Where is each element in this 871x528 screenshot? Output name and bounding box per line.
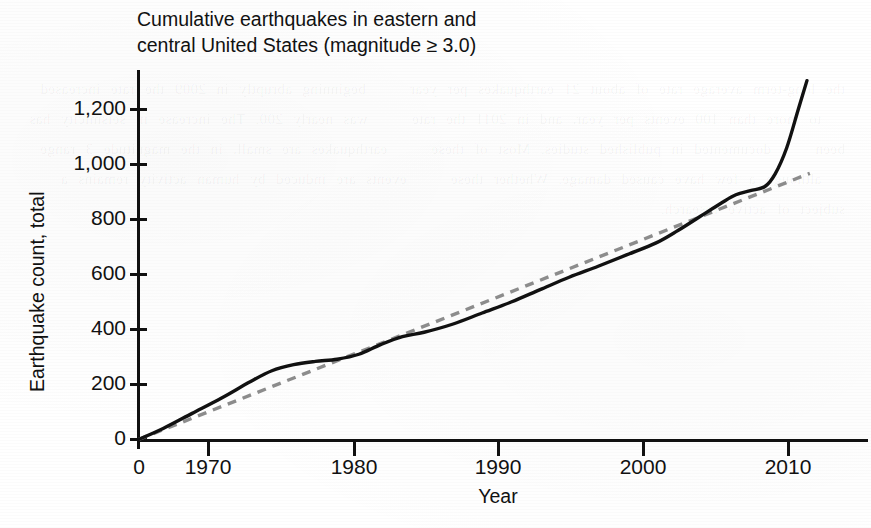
- y-axis-title: Earthquake count, total: [26, 191, 49, 392]
- x-tick-label-1970: 1970: [158, 455, 258, 479]
- y-tick-label-0: 0: [34, 426, 126, 450]
- x-tick-label-2000: 2000: [593, 455, 693, 479]
- axes: [139, 70, 869, 441]
- x-axis-title: Year: [448, 485, 548, 508]
- x-tick-label-1990: 1990: [448, 455, 548, 479]
- earthquake-cumulative-chart: Cumulative earthquakes in eastern and ce…: [0, 0, 871, 528]
- y-tick-label-1000: 1,000: [34, 151, 126, 175]
- x-tick-label-1980: 1980: [304, 455, 404, 479]
- x-tick-label-2010: 2010: [738, 455, 838, 479]
- cumulative-count-line: [139, 81, 807, 440]
- plot-canvas: [0, 0, 871, 528]
- x-tick-label-origin: 0: [118, 455, 160, 479]
- x-axis-ticks: [139, 432, 789, 456]
- y-tick-label-1200: 1,200: [34, 96, 126, 120]
- trend-line-dashed: [139, 173, 810, 439]
